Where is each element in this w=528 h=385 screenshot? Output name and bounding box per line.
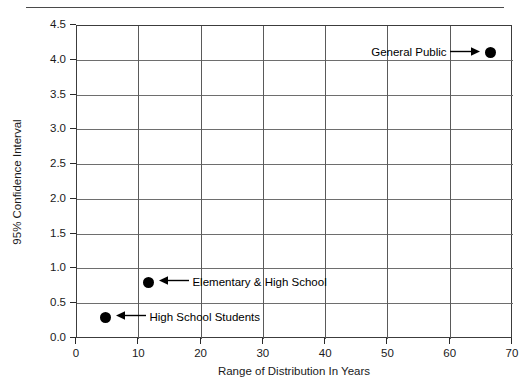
point-annotation-label: General Public [371, 46, 446, 59]
gridline-horizontal [77, 234, 513, 235]
x-axis-tick-label: 60 [430, 347, 470, 360]
y-axis-tick-label: 4.5 [22, 18, 66, 30]
y-axis-tick [70, 24, 76, 25]
point-annotation-label: Elementary & High School [192, 276, 326, 289]
x-axis-tick [386, 338, 387, 344]
gridline-vertical [263, 26, 264, 339]
point-annotation-label: High School Students [149, 311, 260, 324]
x-axis-tick [137, 338, 138, 344]
annotation-arrow-icon [450, 46, 480, 60]
x-axis-tick-label: 50 [367, 347, 407, 360]
annotation-arrow-icon [116, 310, 146, 324]
data-point[interactable] [100, 312, 111, 323]
y-axis-tick-label: 0.5 [22, 296, 66, 308]
x-axis-tick [324, 338, 325, 344]
x-axis-title: Range of Distribution In Years [76, 365, 512, 377]
y-axis-tick-labels: 0.00.51.01.52.02.53.03.54.04.5 [14, 0, 66, 385]
gridline-horizontal [77, 129, 513, 130]
y-axis-tick-label: 3.0 [22, 122, 66, 134]
x-axis-tick [449, 338, 450, 344]
x-axis-tick-label: 70 [492, 347, 528, 360]
y-axis-tick-label: 2.0 [22, 192, 66, 204]
gridline-vertical [387, 26, 388, 339]
gridline-horizontal [77, 164, 513, 165]
scatter-chart: 95% Confidence Interval 0.00.51.01.52.02… [0, 0, 528, 385]
x-axis-tick [200, 338, 201, 344]
data-point[interactable] [143, 277, 154, 288]
point-annotation: High School Students [116, 310, 260, 324]
gridline-vertical [138, 26, 139, 339]
y-axis-tick [70, 198, 76, 199]
y-axis-tick-label: 1.5 [22, 227, 66, 239]
x-axis-tick-label: 0 [56, 347, 96, 360]
y-axis-tick [70, 267, 76, 268]
gridline-horizontal [77, 303, 513, 304]
gridline-horizontal [77, 60, 513, 61]
y-axis-tick [70, 128, 76, 129]
x-axis-tick [262, 338, 263, 344]
y-axis-tick [70, 59, 76, 60]
x-axis-tick-label: 40 [305, 347, 345, 360]
gridline-horizontal [77, 95, 513, 96]
y-axis-tick-label: 0.0 [22, 331, 66, 343]
x-axis-tick-label: 20 [181, 347, 221, 360]
annotation-arrow-icon [159, 275, 189, 289]
x-axis-tick [75, 338, 76, 344]
y-axis-tick-label: 1.0 [22, 261, 66, 273]
gridline-horizontal [77, 268, 513, 269]
y-axis-tick [70, 233, 76, 234]
point-annotation: Elementary & High School [159, 275, 326, 289]
gridline-vertical [325, 26, 326, 339]
point-annotation: General Public [371, 46, 480, 60]
y-axis-tick-label: 4.0 [22, 53, 66, 65]
y-axis-tick-label: 2.5 [22, 157, 66, 169]
y-axis-tick-label: 3.5 [22, 88, 66, 100]
x-axis-tick [511, 338, 512, 344]
x-axis-tick-label: 30 [243, 347, 283, 360]
gridline-horizontal [77, 199, 513, 200]
y-axis-tick [70, 302, 76, 303]
x-axis-tick-label: 10 [118, 347, 158, 360]
gridline-vertical [450, 26, 451, 339]
y-axis-tick [70, 163, 76, 164]
gridline-vertical [201, 26, 202, 339]
y-axis-tick [70, 94, 76, 95]
plot-area [76, 25, 512, 338]
